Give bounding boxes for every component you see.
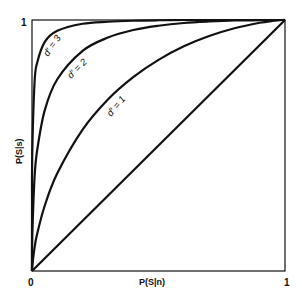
curve-label-d1: d′ = 1 — [104, 93, 127, 118]
roc-chart: 1 0 1 P(S|n) P(S|s) d′ = 3 d′ = 2 d′ = 1 — [0, 0, 302, 298]
x-axis-label: P(S|n) — [139, 277, 165, 287]
x-tick-1: 1 — [284, 277, 290, 288]
x-tick-0: 0 — [28, 277, 34, 288]
curve-label-d2: d′ = 2 — [65, 56, 90, 81]
roc-curves — [32, 20, 285, 271]
y-axis-label: P(S|s) — [14, 138, 24, 164]
y-tick-1: 1 — [21, 17, 27, 28]
roc-curve-chance — [32, 20, 285, 271]
